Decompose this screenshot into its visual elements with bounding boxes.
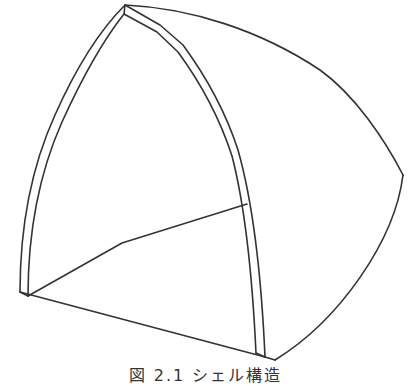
arch-inner-edge — [28, 14, 256, 353]
arch-outer-edge — [20, 5, 265, 357]
shell-structure-figure: 図 2.1 シェル構造 — [0, 0, 411, 386]
shell-structure-drawing — [0, 0, 411, 386]
arch-apex-cap — [124, 5, 125, 14]
floor-back-edge — [28, 204, 247, 296]
figure-caption: 図 2.1 シェル構造 — [0, 366, 411, 386]
floor-front-edge — [20, 292, 265, 357]
shell-right-outline — [275, 175, 403, 360]
arch-right-leg-outer — [265, 357, 275, 360]
